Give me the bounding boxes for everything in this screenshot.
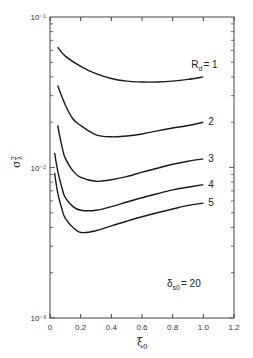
curve-label-rd-3: 3: [208, 153, 214, 164]
parameter-annotation: δs0= 20: [167, 278, 201, 291]
curve-label-rd-5: 5: [208, 197, 214, 208]
y-tick-label: 10⁻²: [30, 164, 46, 173]
x-tick-label: 1.2: [228, 323, 240, 332]
x-tick-label: 0.6: [136, 323, 148, 332]
curve-label-rd-1: Rd= 1: [191, 59, 218, 72]
x-axis-title: ξ0: [137, 336, 148, 351]
curve-label-rd-2: 2: [208, 116, 214, 127]
curve-rd-2: [58, 86, 204, 137]
x-tick-label: 0.8: [167, 323, 179, 332]
y-axis-title: σ2λ: [10, 155, 24, 168]
x-tick-label: 0.4: [106, 323, 118, 332]
y-tick-label: 10⁻³: [30, 314, 46, 323]
curve-rd-4: [55, 153, 204, 211]
chart-canvas: 00.20.40.60.81.01.210⁻³10⁻²10⁻¹ Rd= 1234…: [0, 0, 253, 358]
data-curves: [55, 47, 204, 232]
x-tick-label: 0: [48, 323, 53, 332]
x-tick-label: 0.2: [75, 323, 87, 332]
y-tick-label: 10⁻¹: [30, 13, 46, 22]
x-tick-label: 1.0: [198, 323, 210, 332]
curve-rd-3: [58, 126, 204, 182]
curve-label-rd-4: 4: [208, 179, 214, 190]
curve-rd-1: [58, 47, 204, 82]
curve-rd-5: [55, 173, 204, 233]
